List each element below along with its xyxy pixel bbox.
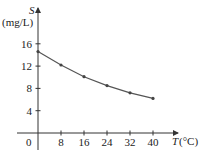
x-tick-label: 16	[79, 136, 91, 148]
y-tick-label: 16	[21, 38, 33, 50]
data-point	[36, 50, 39, 53]
data-point	[59, 63, 62, 66]
y-tick-label: 12	[21, 60, 32, 72]
origin-label: 0	[26, 136, 32, 148]
data-line	[38, 52, 153, 99]
x-axis-var-label: T	[172, 135, 179, 147]
data-points	[36, 50, 154, 100]
data-point	[128, 91, 131, 94]
x-axis-unit-label: (°C)	[179, 135, 198, 148]
x-tick-label: 40	[148, 136, 160, 148]
data-point	[151, 97, 154, 100]
data-point	[105, 84, 108, 87]
y-tick-label: 4	[27, 105, 33, 117]
y-axis-unit-label: (mg/L)	[2, 16, 33, 29]
y-tick-label: 8	[27, 82, 33, 94]
chart: 816243240 481216 0 S (mg/L) T (°C)	[0, 0, 204, 157]
y-axis-var-label: S	[29, 4, 35, 16]
x-tick-label: 32	[125, 136, 136, 148]
data-point	[82, 75, 85, 78]
x-tick-label: 8	[58, 136, 64, 148]
x-tick-label: 24	[102, 136, 114, 148]
